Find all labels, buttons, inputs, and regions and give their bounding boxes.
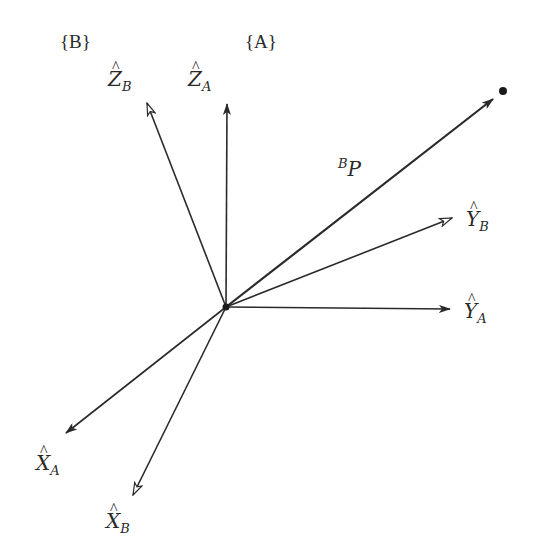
- svg-text:^: ^: [112, 58, 120, 75]
- frame-diagram: {B} {A} ZB ^ ZA ^ BP YB ^ YA ^: [0, 0, 535, 558]
- label-z-a: ZA ^: [187, 58, 211, 94]
- vector-bp: [226, 99, 493, 307]
- axis-y-a: [226, 307, 450, 309]
- label-y-a: YA ^: [464, 290, 487, 326]
- svg-text:^: ^: [192, 58, 200, 75]
- axis-x-b: [133, 307, 226, 495]
- axis-z-b: [147, 103, 226, 307]
- label-y-b: YB ^: [466, 198, 489, 234]
- svg-text:^: ^: [40, 442, 48, 459]
- label-z-b: ZB ^: [107, 58, 131, 94]
- svg-text:BP: BP: [337, 156, 362, 181]
- frame-label-a: {A}: [245, 31, 277, 52]
- origin-point: [223, 304, 230, 311]
- frame-label-b: {B}: [60, 31, 91, 52]
- svg-text:^: ^: [468, 290, 476, 307]
- label-x-a: XA ^: [34, 442, 60, 478]
- axis-y-b: [226, 218, 452, 307]
- label-bp: BP: [337, 156, 362, 181]
- label-x-b: XB ^: [104, 500, 130, 536]
- point-p: [499, 87, 507, 95]
- axis-x-a: [66, 307, 226, 433]
- axis-z-a: [226, 104, 227, 307]
- svg-text:^: ^: [110, 500, 118, 517]
- svg-text:^: ^: [470, 198, 478, 215]
